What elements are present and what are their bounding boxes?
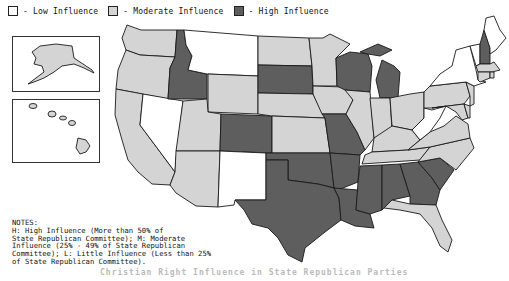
state-north-dakota	[258, 36, 312, 66]
state-mississippi	[356, 165, 382, 214]
state-arkansas	[330, 153, 360, 190]
state-south-dakota	[258, 65, 313, 94]
state-arizona	[170, 151, 220, 207]
notes-text: H: High Influence (More than 50% of Stat…	[12, 226, 211, 266]
state-kansas	[272, 116, 330, 153]
state-rhode-island	[490, 72, 494, 78]
state-michigan	[376, 60, 400, 98]
state-wyoming	[208, 74, 258, 114]
state-wisconsin	[336, 52, 372, 92]
state-hawaii	[29, 104, 90, 155]
map-caption: Christian Right Influence in State Repub…	[100, 268, 408, 277]
notes-block: NOTES: H: High Influence (More than 50% …	[12, 219, 211, 266]
state-connecticut	[478, 72, 490, 82]
state-new-mexico	[218, 151, 266, 207]
state-colorado	[220, 114, 272, 153]
state-florida	[384, 200, 452, 252]
state-alaska	[28, 44, 94, 84]
state-montana	[184, 30, 258, 76]
